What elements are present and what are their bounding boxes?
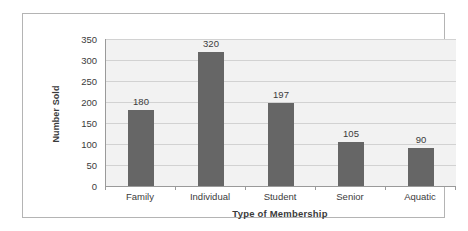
bar[interactable] — [338, 142, 364, 186]
y-axis-tick-label: 250 — [67, 76, 97, 87]
bar-group: 180 — [106, 39, 176, 186]
x-axis-tick-mark — [245, 186, 246, 190]
x-axis-tick-mark — [105, 186, 106, 190]
bar[interactable] — [268, 103, 294, 186]
bar-value-label: 320 — [186, 38, 236, 50]
y-axis-tick-label: 350 — [67, 34, 97, 45]
bar-group: 105 — [316, 39, 386, 186]
x-axis-tick-label: Student — [245, 190, 315, 203]
x-axis-tick-mark — [385, 186, 386, 190]
y-axis-title: Number Sold — [49, 59, 63, 169]
plot-area: 18032019710590 — [105, 39, 456, 186]
bar[interactable] — [128, 110, 154, 186]
x-axis-tick-mark — [175, 186, 176, 190]
y-axis-tick-label: 50 — [67, 160, 97, 171]
x-axis-tick-labels: FamilyIndividualStudentSeniorAquatic — [105, 190, 455, 204]
bar[interactable] — [408, 148, 434, 186]
x-axis-tick-label: Individual — [175, 190, 245, 203]
bar-value-label: 180 — [116, 96, 166, 108]
y-axis-tick-labels: 050100150200250300350 — [67, 33, 97, 193]
bar-value-label: 105 — [326, 128, 376, 140]
bar-group: 90 — [386, 39, 456, 186]
y-axis-tick-label: 300 — [67, 55, 97, 66]
x-axis-tick-mark — [455, 186, 456, 190]
x-axis-title: Type of Membership — [105, 208, 455, 219]
bar-value-label: 90 — [396, 134, 446, 146]
y-axis-tick-label: 200 — [67, 97, 97, 108]
y-axis-tick-label: 150 — [67, 118, 97, 129]
x-axis-tick-mark — [315, 186, 316, 190]
x-axis-tick-label: Family — [105, 190, 175, 203]
y-axis-tick-label: 0 — [67, 181, 97, 192]
x-axis-tick-label: Aquatic — [385, 190, 455, 203]
x-axis-tick-label: Senior — [315, 190, 385, 203]
chart-frame: Number Sold 050100150200250300350 180320… — [22, 13, 445, 218]
bar-group: 320 — [176, 39, 246, 186]
y-axis-tick-label: 100 — [67, 139, 97, 150]
bar[interactable] — [198, 52, 224, 186]
bar-group: 197 — [246, 39, 316, 186]
bar-value-label: 197 — [256, 89, 306, 101]
x-axis-line — [105, 186, 455, 187]
